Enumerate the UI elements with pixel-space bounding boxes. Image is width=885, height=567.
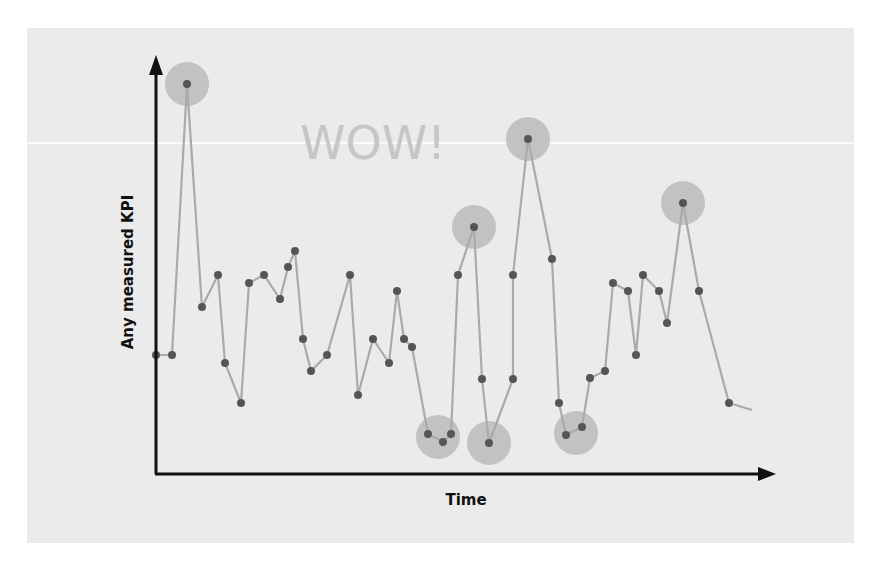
data-point [237, 399, 245, 407]
data-point [198, 303, 206, 311]
data-point [291, 247, 299, 255]
data-point [369, 335, 377, 343]
data-point [307, 367, 315, 375]
data-point [725, 399, 733, 407]
data-point [284, 263, 292, 271]
data-point [609, 279, 617, 287]
data-point [323, 351, 331, 359]
data-point [276, 295, 284, 303]
y-axis-label: Any measured KPI [119, 195, 137, 350]
data-point [524, 135, 532, 143]
data-point [221, 359, 229, 367]
data-point [632, 351, 640, 359]
data-point [183, 80, 191, 88]
wow-annotation: WOW! [300, 116, 446, 170]
data-point [578, 423, 586, 431]
data-point [509, 271, 517, 279]
data-point [168, 351, 176, 359]
data-point [400, 335, 408, 343]
data-point [639, 271, 647, 279]
kpi-series-line [156, 84, 752, 443]
data-point [478, 375, 486, 383]
data-point [679, 199, 687, 207]
data-point [393, 287, 401, 295]
data-point [385, 359, 393, 367]
x-axis-label: Time [445, 491, 486, 509]
data-point [655, 287, 663, 295]
data-point [695, 287, 703, 295]
data-point [408, 343, 416, 351]
outlier-halo [554, 411, 598, 455]
y-axis-arrow-icon [149, 55, 163, 75]
data-point [354, 391, 362, 399]
data-point [509, 375, 517, 383]
data-point [245, 279, 253, 287]
data-point [548, 255, 556, 263]
x-axis-arrow-icon [758, 467, 776, 481]
data-point [562, 431, 570, 439]
data-point [470, 223, 478, 231]
data-point [447, 430, 455, 438]
data-point [260, 271, 268, 279]
data-point [346, 271, 354, 279]
data-point [439, 438, 447, 446]
data-point [214, 271, 222, 279]
data-point [424, 430, 432, 438]
data-point [663, 319, 671, 327]
data-point [299, 335, 307, 343]
data-point [624, 287, 632, 295]
data-point [555, 399, 563, 407]
data-point [485, 439, 493, 447]
data-point [454, 271, 462, 279]
data-point [601, 367, 609, 375]
data-point [586, 374, 594, 382]
